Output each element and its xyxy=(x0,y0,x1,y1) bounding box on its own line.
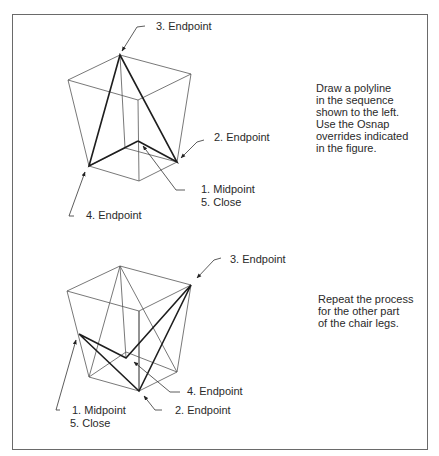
label-4-endpoint-bottom: 4. Endpoint xyxy=(187,385,243,398)
label-3-endpoint-top: 3. Endpoint xyxy=(156,20,212,33)
instruction-line: Use the Osnap xyxy=(316,118,408,130)
instruction-line: shown to the left. xyxy=(316,106,408,118)
bottom-wireframe xyxy=(67,266,191,391)
top-polyline xyxy=(89,55,177,166)
instruction-line: overrides indicated xyxy=(316,130,408,142)
instruction-line: of the chair legs. xyxy=(318,317,413,329)
bottom-polyline xyxy=(79,285,191,391)
label-3-endpoint-bottom: 3. Endpoint xyxy=(230,253,286,266)
instruction-line: for the other part xyxy=(318,305,413,317)
label-5-close-top: 5. Close xyxy=(201,196,241,209)
instructions-bottom: Repeat the process for the other part of… xyxy=(318,293,413,329)
label-4-endpoint-top: 4. Endpoint xyxy=(86,209,142,222)
label-2-endpoint-top: 2. Endpoint xyxy=(214,131,270,144)
instruction-line: Repeat the process xyxy=(318,293,413,305)
label-1-midpoint-top: 1. Midpoint xyxy=(201,183,255,196)
instruction-line: in the figure. xyxy=(316,142,408,154)
instruction-line: Draw a polyline xyxy=(316,82,408,94)
label-5-close-bottom: 5. Close xyxy=(70,417,110,430)
instructions-top: Draw a polyline in the sequence shown to… xyxy=(316,82,408,154)
label-2-endpoint-bottom: 2. Endpoint xyxy=(175,404,231,417)
instruction-line: in the sequence xyxy=(316,94,408,106)
label-1-midpoint-bottom: 1. Midpoint xyxy=(72,404,126,417)
